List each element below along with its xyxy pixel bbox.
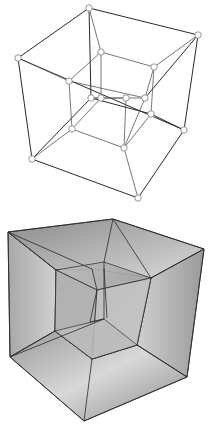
vertex (142, 95, 148, 101)
tesseract-diagrams (0, 0, 211, 424)
vertex (29, 156, 35, 162)
tesseract-shaded (8, 219, 204, 421)
vertex (195, 32, 201, 38)
vertex (181, 127, 187, 133)
vertex (88, 95, 94, 101)
vertex (15, 55, 21, 61)
tesseract-wireframe (15, 5, 201, 201)
outer-cube-edges (18, 8, 198, 198)
vertex (98, 49, 104, 55)
vertex (123, 95, 129, 101)
vertex (98, 95, 104, 101)
vertex (86, 5, 92, 11)
vertex (151, 64, 157, 70)
inner-cube-edges (69, 52, 154, 148)
vertex (69, 126, 75, 132)
vertex (135, 195, 141, 201)
vertex (148, 111, 154, 117)
vertex (121, 145, 127, 151)
vertex (66, 78, 72, 84)
